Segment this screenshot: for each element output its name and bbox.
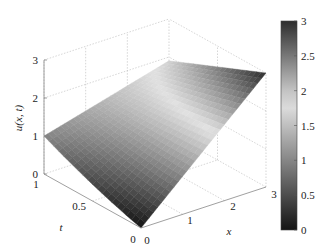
- t-axis-label: t: [59, 221, 63, 233]
- svg-text:3: 3: [271, 188, 277, 200]
- surface-plot: 012300.510123 u(x, t) t x 00.511.522.53: [0, 0, 332, 252]
- svg-text:3: 3: [33, 54, 39, 66]
- svg-text:1: 1: [187, 214, 193, 226]
- svg-text:2: 2: [33, 92, 39, 104]
- svg-text:2.5: 2.5: [301, 50, 315, 62]
- svg-text:0.5: 0.5: [301, 189, 315, 201]
- svg-text:3: 3: [301, 15, 307, 27]
- colorbar: 00.511.522.53: [281, 15, 315, 236]
- svg-text:2: 2: [230, 200, 236, 212]
- svg-text:2: 2: [301, 85, 307, 97]
- svg-text:1: 1: [33, 130, 39, 142]
- x-axis-label: x: [226, 225, 232, 237]
- svg-text:1: 1: [33, 178, 39, 190]
- svg-text:0: 0: [301, 224, 307, 236]
- svg-text:1: 1: [301, 154, 307, 166]
- svg-text:1.5: 1.5: [301, 120, 315, 132]
- svg-text:0: 0: [144, 234, 150, 246]
- svg-text:0: 0: [130, 233, 136, 245]
- svg-text:0.5: 0.5: [72, 200, 86, 212]
- z-axis-label: u(x, t): [12, 105, 25, 132]
